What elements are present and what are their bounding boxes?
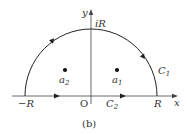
axis-arrow-left-icon — [54, 94, 60, 99]
pos-r-label: R — [153, 98, 162, 109]
pole-a2-dot — [63, 68, 67, 72]
c1-label: C1 — [158, 65, 170, 78]
pole-a2-label: a2 — [59, 74, 70, 87]
y-axis-label: y — [81, 7, 88, 18]
axis-arrow-right-icon — [120, 94, 126, 99]
pole-a1-dot — [115, 68, 119, 72]
x-axis-label: x — [174, 97, 180, 108]
contour-diagram: y iR x −R R O C2 C1 a2 a1 (b) — [0, 0, 187, 135]
pole-a1-label: a1 — [112, 74, 122, 87]
origin-label: O — [80, 98, 88, 109]
c2-label: C2 — [106, 98, 119, 111]
y-axis-arrow-icon — [89, 9, 93, 15]
ir-label: iR — [95, 18, 106, 29]
neg-r-label: −R — [18, 98, 34, 109]
figure-caption: (b) — [82, 118, 96, 129]
